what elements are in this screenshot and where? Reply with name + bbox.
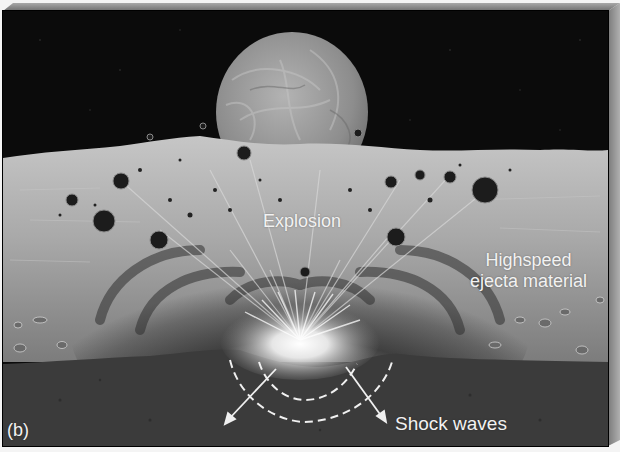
ejecta-label-line1: Highspeed bbox=[470, 250, 587, 271]
ejecta-label-line2: ejecta material bbox=[470, 271, 587, 292]
shock-waves-label: Shock waves bbox=[395, 414, 507, 433]
frame-bevel-right bbox=[608, 3, 620, 446]
frame-bevel-top bbox=[3, 3, 620, 11]
explosion-label: Explosion bbox=[263, 212, 341, 230]
panel-label: (b) bbox=[7, 421, 29, 439]
ejecta-label: Highspeed ejecta material bbox=[470, 250, 587, 292]
